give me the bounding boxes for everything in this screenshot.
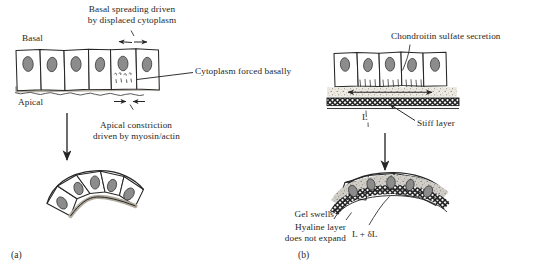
- stiff-layer: [327, 98, 459, 106]
- length-initial-label: L: [362, 112, 368, 123]
- apical-constriction-leader: [130, 105, 133, 110]
- basal-spreading-arrows: [119, 42, 147, 43]
- nucleus: [385, 57, 395, 71]
- nucleus: [430, 58, 440, 72]
- hyaline-leader: [346, 213, 352, 221]
- cytoplasm-forced-basally-label: Cytoplasm forced basally: [195, 66, 291, 77]
- basal-caption-leader: [131, 31, 134, 37]
- nucleus: [71, 56, 82, 71]
- panel-a-id: (a): [11, 250, 22, 260]
- nucleus: [118, 56, 129, 71]
- gel-swells-label: Gel swells: [271, 209, 334, 220]
- nucleus: [90, 176, 100, 190]
- figure-canvas: Basal spreading driven by displaced cyto…: [0, 0, 537, 278]
- length-final-label: L + δL: [352, 229, 378, 240]
- basal-label: Basal: [22, 33, 43, 44]
- apical-label: Apical: [18, 97, 43, 108]
- panel-b-fan-epithelium: [330, 173, 447, 225]
- apical-surface-ruffle: [16, 92, 144, 95]
- panel-a-flat-epithelium: [15, 49, 160, 96]
- hyaline-layer-label-line1: Hyaline layer: [266, 222, 346, 233]
- basal-spreading-caption-line1: Basal spreading driven: [58, 4, 206, 15]
- panel-b-flat-epithelium: [327, 45, 459, 128]
- nucleus: [387, 177, 396, 189]
- apical-constriction-caption-line1: Apical constriction: [100, 120, 172, 131]
- panel-b-group: [327, 45, 459, 226]
- stiff-layer-label: Stiff layer: [417, 118, 455, 129]
- apical-constriction-arrows: [114, 102, 145, 110]
- panel-a-fan-epithelium: [47, 171, 144, 216]
- length-final-leader: [369, 197, 390, 226]
- apical-constriction-caption-line2: driven by myosin/actin: [93, 131, 180, 142]
- basal-spreading-caption-line2: by displaced cytoplasm: [58, 15, 206, 26]
- hyaline-layer-label-line2: does not expand: [255, 233, 346, 244]
- stiff-layer-callout: [390, 105, 415, 121]
- panel-b-id: (b): [298, 250, 309, 260]
- chondroitin-sulfate-secretion-label: Chondroitin sulfate secretion: [391, 31, 501, 42]
